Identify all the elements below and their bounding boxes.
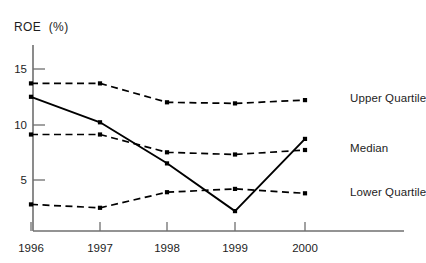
y-axis-ticks (33, 69, 45, 180)
data-point-marker (165, 161, 169, 165)
data-point-marker (29, 95, 33, 99)
data-point-marker (29, 202, 33, 206)
x-tick-label-2000: 2000 (292, 242, 318, 254)
x-tick-label-1997: 1997 (87, 242, 113, 254)
data-point-marker (98, 81, 102, 85)
x-tick-label-1999: 1999 (222, 242, 248, 254)
data-point-marker (165, 190, 169, 194)
data-point-marker (165, 100, 169, 104)
data-point-marker (303, 191, 307, 195)
data-point-marker (98, 206, 102, 210)
data-point-marker (303, 148, 307, 152)
x-axis-ticks (31, 222, 305, 231)
data-point-marker (303, 137, 307, 141)
data-point-marker (98, 132, 102, 136)
data-point-marker (29, 81, 33, 85)
y-tick-label-10: 10 (14, 119, 27, 131)
data-point-marker (165, 150, 169, 154)
data-point-marker (233, 187, 237, 191)
data-point-marker (303, 98, 307, 102)
legend-label-lower-quartile: Lower Quartile (350, 186, 426, 198)
data-point-marker (233, 101, 237, 105)
legend-label-upper-quartile: Upper Quartile (350, 92, 426, 104)
y-tick-label-5: 5 (21, 174, 27, 186)
x-tick-label-1998: 1998 (154, 242, 180, 254)
x-tick-label-1996: 1996 (18, 242, 44, 254)
data-point-marker (233, 152, 237, 156)
data-point-marker (29, 132, 33, 136)
data-point-marker (233, 209, 237, 213)
data-point-marker (98, 120, 102, 124)
legend-label-median: Median (350, 142, 388, 154)
data-series-layer (29, 81, 307, 213)
y-tick-label-15: 15 (14, 63, 27, 75)
